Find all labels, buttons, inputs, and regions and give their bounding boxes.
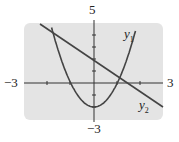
x-max-label: 3 [167, 75, 174, 91]
y-min-label: −3 [87, 121, 101, 137]
y2-label: y2 [139, 97, 149, 115]
y-max-label: 5 [89, 2, 96, 18]
x-min-label: −3 [4, 75, 18, 91]
y1-label: y1 [124, 26, 134, 44]
